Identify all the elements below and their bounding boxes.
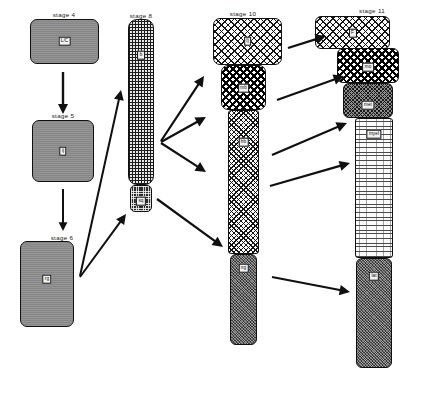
stage11-block-greyhatch-label: met: [361, 101, 374, 110]
stage11-block-head-label: F: [348, 29, 356, 38]
stage8-block-foot-label: sq: [136, 197, 146, 206]
stage8-block-grid[interactable]: [128, 19, 154, 185]
stage6-block-a-label: rg: [42, 275, 51, 284]
stage-title-stage-6: stage 6: [32, 234, 92, 241]
stage-title-stage-11: stage 11: [342, 7, 402, 14]
stage11-block-lines-label: myel: [366, 130, 381, 139]
stage10-block-foot-label: ng: [238, 264, 249, 273]
stage-title-stage-10: stage 10: [213, 10, 273, 17]
stage5-block-a-label: ij: [59, 147, 66, 156]
stage4-block-a-label: L/C: [58, 37, 71, 46]
stage10-block-dots-label: mb: [238, 84, 250, 93]
stage10-block-head-label: fj: [244, 37, 252, 46]
stage11-block-dots-label: mo: [362, 63, 374, 72]
stage10-block-shaft-label: hb: [238, 138, 249, 147]
stage8-block-grid-label: b: [137, 51, 145, 60]
stage6-block-a[interactable]: [20, 241, 74, 327]
stage11-block-lines[interactable]: [355, 118, 393, 258]
stage-title-stage-5: stage 5: [33, 112, 93, 119]
figure-canvas: stage 4L/Cstage 5ijstage 6rgstage 8bsqst…: [0, 0, 442, 411]
stage11-block-foot-label: lat: [369, 272, 379, 281]
stage10-block-shaft[interactable]: [228, 110, 259, 254]
stage-title-stage-8: stage 8: [111, 12, 171, 19]
stage-title-stage-4: stage 4: [34, 11, 94, 18]
